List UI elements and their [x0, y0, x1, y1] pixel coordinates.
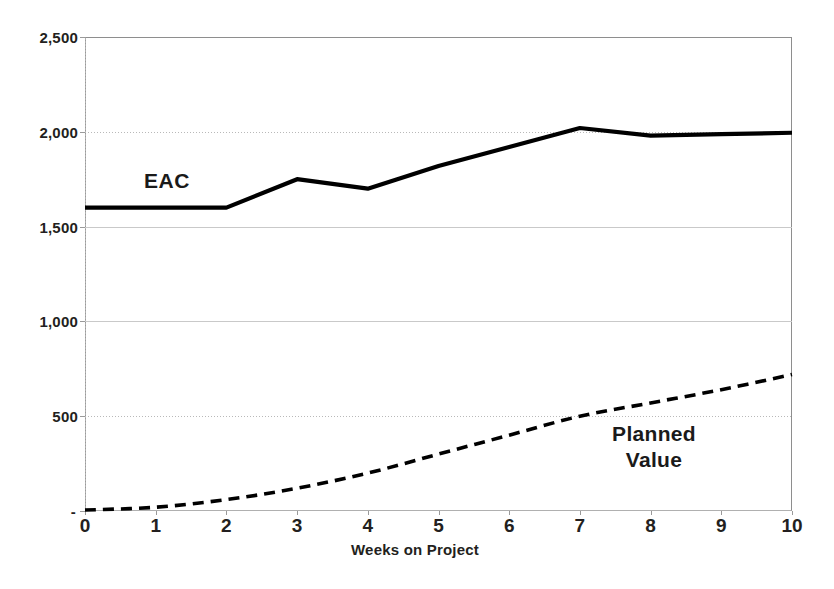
x-tick-label-2: 2 — [202, 514, 250, 539]
x-tick-label-1: 1 — [132, 514, 180, 539]
x-tick-label-4: 4 — [344, 514, 392, 539]
x-tick-label-5: 5 — [415, 514, 463, 539]
x-tick-label-7: 7 — [556, 514, 604, 539]
x-tick-label-8: 8 — [627, 514, 675, 539]
y-axis-tick-labels: 2,5002,0001,5001,000500- — [8, 0, 78, 589]
series-annotation-eac: EAC — [144, 168, 190, 194]
chart-canvas — [0, 0, 834, 589]
x-tick-label-10: 10 — [768, 514, 816, 539]
x-tick-label-9: 9 — [697, 514, 745, 539]
chart-container: 2,5002,0001,5001,000500- 012345678910 We… — [0, 0, 834, 589]
y-tick-label-2500: 2,500 — [14, 30, 78, 45]
y-tick-label-2000: 2,000 — [14, 124, 78, 139]
x-tick-label-6: 6 — [485, 514, 533, 539]
x-tick-label-0: 0 — [61, 514, 109, 539]
y-tick-label-500: 500 — [14, 409, 78, 424]
series-annotation-planned-value: Planned Value — [600, 421, 708, 472]
y-tick-label-1500: 1,500 — [14, 219, 78, 234]
y-tick-label-1000: 1,000 — [14, 314, 78, 329]
x-axis-title: Weeks on Project — [0, 541, 834, 558]
series-line-eac — [85, 128, 792, 208]
x-tick-label-3: 3 — [273, 514, 321, 539]
x-axis-title-text: Weeks on Project — [351, 541, 479, 558]
